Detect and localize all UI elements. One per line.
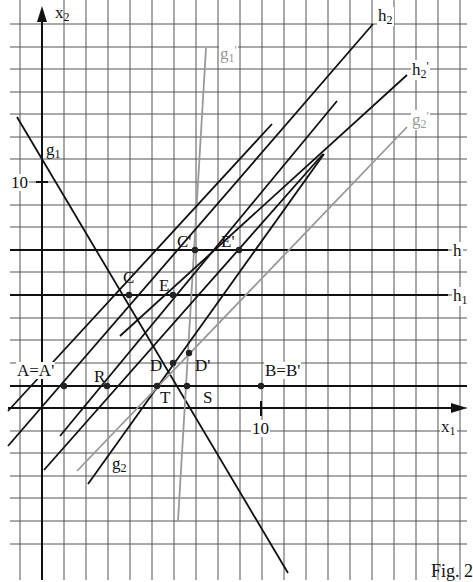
label-point-t: T bbox=[159, 389, 171, 406]
point-s bbox=[184, 383, 190, 389]
label-point-e-prime: E' bbox=[220, 233, 235, 250]
label-point-a: A=A' bbox=[16, 362, 55, 379]
x1-axis-arrow-icon bbox=[451, 403, 467, 413]
point-d-prime bbox=[186, 350, 192, 356]
point-c-prime bbox=[192, 247, 198, 253]
label-point-d: D bbox=[149, 357, 163, 374]
x1-axis-label: x1 bbox=[440, 418, 457, 437]
point-e-prime bbox=[236, 247, 242, 253]
x-tick-label-10: 10 bbox=[251, 420, 270, 437]
grid bbox=[10, 0, 467, 580]
label-point-c: C bbox=[122, 269, 135, 286]
line-g1-prime bbox=[178, 48, 206, 521]
label-h1: h1 bbox=[452, 287, 469, 306]
point-e bbox=[170, 292, 176, 298]
label-g1: g1 bbox=[45, 141, 62, 160]
label-point-d-prime: D' bbox=[194, 357, 211, 374]
label-point-s: S bbox=[202, 389, 213, 406]
line-g2-prime bbox=[77, 127, 407, 471]
label-h2-prime: h2' bbox=[411, 60, 430, 80]
y-tick-label-10: 10 bbox=[10, 174, 29, 191]
label-g1-prime: g1' bbox=[219, 44, 238, 64]
figure-caption: Fig. 2 bbox=[431, 561, 473, 582]
label-h2: h2 bbox=[377, 7, 394, 26]
label-point-r: R bbox=[93, 368, 106, 385]
point-a bbox=[61, 383, 67, 389]
point-d bbox=[170, 360, 176, 366]
x2-axis-arrow-icon bbox=[37, 6, 47, 22]
label-point-c-prime: C' bbox=[176, 233, 192, 250]
label-point-b: B=B' bbox=[264, 362, 301, 379]
label-g2: g2 bbox=[111, 455, 128, 474]
point-b bbox=[258, 383, 264, 389]
label-point-e: E bbox=[158, 277, 170, 294]
point-c bbox=[126, 292, 132, 298]
x2-axis-label: x2 bbox=[54, 4, 71, 23]
label-g2-prime: g2' bbox=[411, 110, 430, 130]
label-h: h bbox=[452, 242, 463, 259]
